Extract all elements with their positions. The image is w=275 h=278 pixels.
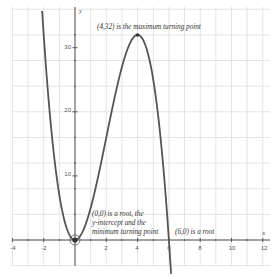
x-tick-label: 4 <box>135 245 139 251</box>
x-tick-label: -2 <box>41 245 47 251</box>
y-tick-label: 10 <box>64 171 71 177</box>
y-tick-label: 30 <box>64 44 71 50</box>
x-tick-label: 10 <box>229 245 236 251</box>
function-graph: x y -4 -2 2 4 6 8 10 12 10 20 30 (4,32) … <box>0 0 275 278</box>
origin-annotation-line-1: (0,0) is a root, the <box>92 210 144 218</box>
x-axis-label: x <box>261 229 266 237</box>
y-tick-label: 20 <box>64 107 71 113</box>
x-tick-label: 2 <box>104 245 108 251</box>
origin-annotation-line-3: minimum turning point <box>92 228 159 236</box>
x-tick-label: 8 <box>198 245 202 251</box>
root-annotation: (6,0) is a root <box>175 228 215 236</box>
maximum-annotation: (4,32) is the maximum turning point <box>97 23 202 31</box>
maximum-point-dot <box>136 33 140 37</box>
origin-dot <box>72 237 77 242</box>
x-tick-label: -4 <box>10 245 16 251</box>
y-axis-label: y <box>78 7 83 15</box>
origin-annotation-line-2: y-intercept and the <box>91 219 147 227</box>
x-tick-label: 12 <box>261 245 268 251</box>
